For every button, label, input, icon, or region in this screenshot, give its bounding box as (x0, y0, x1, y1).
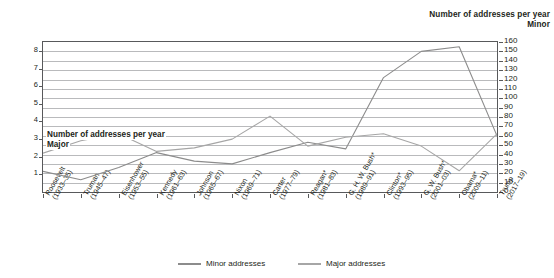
legend-label-minor: Minor addresses (206, 259, 265, 269)
left-axis-label: 2 (20, 152, 38, 160)
legend-label-major: Major addresses (326, 259, 385, 269)
right-axis-label: 40 (504, 150, 513, 158)
legend-swatch-minor (178, 263, 201, 265)
inner-caption-line2: Major (46, 140, 70, 150)
right-axis-label: 80 (504, 112, 513, 120)
left-axis-label: 1 (20, 169, 38, 177)
left-axis-label: 6 (20, 81, 38, 89)
right-axis-label: 150 (504, 46, 517, 54)
x-axis-labels: Roosevelt(1933–35)Truman(1945–47)Eisenho… (0, 193, 554, 255)
chart-header-line2: Minor (527, 20, 550, 30)
chart-header-line1: Number of addresses per year (429, 10, 550, 20)
right-axis-label: 140 (504, 56, 517, 64)
minor-addresses-line (43, 47, 497, 180)
chart-legend: Minor addresses Major addresses (0, 259, 554, 273)
chart-figure: Number of addresses per year Minor Numbe… (0, 0, 554, 278)
right-axis-label: 110 (504, 84, 517, 92)
right-axis-label: 100 (504, 93, 517, 101)
right-axis-label: 70 (504, 121, 513, 129)
right-axis-label: 130 (504, 65, 517, 73)
left-axis-label: 3 (20, 134, 38, 142)
legend-item-minor: Minor addresses (178, 259, 265, 269)
right-axis-label: 160 (504, 37, 517, 45)
left-axis-labels: 12345678 (20, 128, 40, 194)
major-addresses-line (43, 116, 497, 171)
right-axis-label: 30 (504, 159, 513, 167)
legend-item-major: Major addresses (298, 259, 385, 269)
legend-swatch-major (298, 263, 321, 265)
right-axis-label: 90 (504, 103, 513, 111)
left-axis-label: 8 (20, 46, 38, 54)
right-axis-label: 120 (504, 75, 517, 83)
inner-caption-line1: Number of addresses per year (46, 130, 166, 140)
right-axis-label: 50 (504, 140, 513, 148)
series-lines (43, 42, 497, 192)
plot-area (42, 41, 498, 193)
left-axis-label: 4 (20, 116, 38, 124)
left-axis-label: 5 (20, 99, 38, 107)
left-axis-label: 7 (20, 64, 38, 72)
right-axis-label: 60 (504, 131, 513, 139)
